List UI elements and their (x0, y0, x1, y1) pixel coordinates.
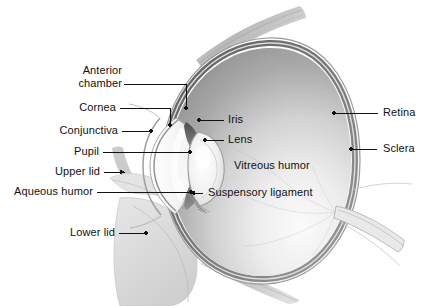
label-suspensory-ligament: Suspensory ligament (208, 186, 313, 199)
label-pupil: Pupil (0, 145, 99, 158)
label-sclera: Sclera (383, 142, 415, 155)
label-upper-lid: Upper lid (0, 165, 100, 178)
label-vitreous-humor: Vitreous humor (234, 159, 310, 172)
label-anterior-chamber: Anterior chamber (0, 64, 122, 89)
label-cornea: Cornea (0, 101, 116, 114)
label-anterior-chamber-line2: chamber (0, 77, 122, 90)
label-anterior-chamber-line1: Anterior (0, 64, 122, 77)
label-conjunctiva: Conjunctiva (0, 124, 118, 137)
eye-anatomy-diagram: Anterior chamber Cornea Conjunctiva Pupi… (0, 0, 422, 306)
label-aqueous-humor: Aqueous humor (0, 185, 93, 198)
label-lower-lid: Lower lid (0, 226, 115, 239)
label-lens: Lens (228, 133, 252, 146)
label-retina: Retina (383, 106, 415, 119)
label-iris: Iris (228, 113, 243, 126)
leader-cornea (120, 108, 170, 124)
